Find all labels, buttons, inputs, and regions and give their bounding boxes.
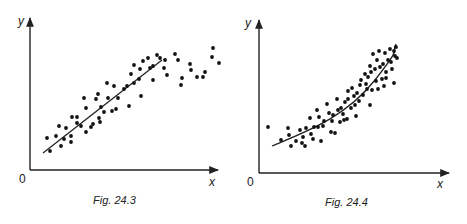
- data-point: [338, 120, 342, 124]
- data-point: [91, 122, 95, 126]
- data-point: [75, 115, 79, 119]
- data-point: [335, 97, 339, 101]
- data-point: [390, 67, 394, 71]
- data-point: [132, 81, 136, 85]
- data-point: [375, 58, 379, 62]
- data-point: [201, 75, 205, 79]
- data-point: [163, 58, 167, 62]
- data-point: [127, 104, 131, 108]
- data-point: [96, 92, 100, 96]
- data-point: [395, 56, 399, 60]
- data-point: [353, 103, 357, 107]
- data-point: [374, 79, 378, 83]
- data-point: [311, 137, 315, 141]
- data-point: [389, 60, 393, 64]
- data-point: [54, 134, 58, 138]
- data-point: [286, 126, 290, 130]
- data-point: [315, 108, 319, 112]
- data-point: [309, 132, 313, 136]
- data-point: [99, 105, 103, 109]
- data-point: [371, 52, 375, 56]
- data-point: [304, 126, 308, 130]
- data-point: [319, 139, 323, 143]
- data-point: [376, 87, 380, 91]
- data-point: [369, 70, 373, 74]
- data-point: [165, 73, 169, 77]
- data-point: [345, 117, 349, 121]
- data-point: [82, 96, 86, 100]
- data-point: [141, 59, 145, 63]
- data-point: [392, 49, 396, 53]
- data-point: [146, 56, 150, 60]
- data-point: [75, 121, 79, 125]
- data-point: [330, 119, 334, 123]
- data-point: [94, 97, 98, 101]
- data-point: [317, 115, 321, 119]
- data-point: [84, 130, 88, 134]
- data-point: [394, 45, 398, 49]
- data-point: [392, 81, 396, 85]
- data-point: [129, 72, 133, 76]
- data-point: [300, 141, 304, 145]
- data-point: [84, 106, 88, 110]
- data-point: [388, 47, 392, 51]
- y-axis-label: y: [244, 16, 252, 30]
- data-point: [316, 125, 320, 129]
- y-axis-label: y: [17, 14, 25, 28]
- data-point: [105, 81, 109, 85]
- data-point: [355, 91, 359, 95]
- chart-fig-24-4: y x 0 Fig. 24.4: [244, 16, 449, 208]
- data-point: [301, 135, 305, 139]
- data-point: [381, 62, 385, 66]
- data-point: [151, 78, 155, 82]
- data-point: [331, 113, 335, 117]
- data-point: [346, 97, 350, 101]
- data-point: [383, 51, 387, 55]
- data-point: [287, 133, 291, 137]
- data-point: [180, 76, 184, 80]
- data-point: [380, 77, 384, 81]
- data-point: [138, 67, 142, 71]
- data-point: [382, 84, 386, 88]
- data-point: [98, 120, 102, 124]
- data-point: [312, 125, 316, 129]
- scatter-points: [45, 46, 221, 153]
- data-point: [139, 94, 143, 98]
- data-point: [341, 112, 345, 116]
- data-point: [69, 140, 73, 144]
- data-point: [137, 77, 141, 81]
- data-point: [303, 144, 307, 148]
- data-point: [361, 93, 365, 97]
- data-point: [112, 84, 116, 88]
- data-point: [365, 87, 369, 91]
- figure-canvas: y x 0 Fig. 24.3 y x 0 Fig. 24.4: [0, 0, 467, 224]
- data-point: [359, 78, 363, 82]
- data-point: [322, 119, 326, 123]
- data-point: [358, 83, 362, 87]
- data-point: [97, 116, 101, 120]
- data-point: [346, 89, 350, 93]
- data-point: [158, 56, 162, 60]
- data-point: [294, 139, 298, 143]
- data-point: [62, 137, 66, 141]
- data-point: [378, 65, 382, 69]
- figure-caption: Fig. 24.4: [325, 196, 368, 208]
- data-point: [298, 128, 302, 132]
- origin-label: 0: [247, 175, 254, 189]
- data-point: [102, 110, 106, 114]
- data-point: [308, 116, 312, 120]
- data-point: [125, 84, 129, 88]
- chart-fig-24-3: y x 0 Fig. 24.3: [17, 14, 221, 206]
- data-point: [211, 46, 215, 50]
- data-point: [116, 96, 120, 100]
- data-point: [370, 88, 374, 92]
- data-point: [368, 103, 372, 107]
- data-point: [364, 82, 368, 86]
- data-point: [64, 126, 68, 130]
- data-point: [321, 124, 325, 128]
- data-point: [327, 111, 331, 115]
- data-point: [384, 70, 388, 74]
- data-point: [69, 134, 73, 138]
- data-point: [325, 102, 329, 106]
- data-point: [373, 67, 377, 71]
